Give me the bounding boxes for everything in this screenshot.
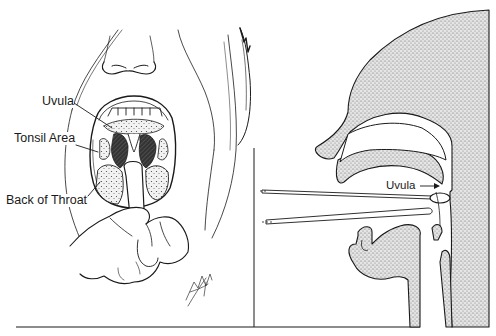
swab-lower: [266, 208, 432, 224]
upper-teeth: [108, 108, 162, 116]
throat-left-dark: [111, 134, 128, 169]
leader-tonsil: [76, 145, 98, 152]
label-tonsil-area: Tonsil Area: [14, 132, 75, 145]
tonsil-right: [158, 139, 168, 160]
ear: [238, 28, 251, 145]
label-back-of-throat: Back of Throat: [6, 194, 87, 207]
tongue-jaw: [349, 225, 420, 327]
right-panel-sagittal-view: [254, 10, 489, 327]
uvula-frontal: [128, 134, 140, 152]
tongue-left: [96, 165, 123, 204]
label-uvula-frontal: Uvula: [42, 95, 74, 108]
throat-exam-illustration: [0, 0, 496, 336]
trachea: [440, 250, 452, 327]
leader-uvula: [74, 103, 112, 128]
tonsil-left: [100, 138, 110, 159]
label-uvula-sagittal: Uvula: [386, 180, 415, 192]
palate: [104, 119, 164, 134]
hand: [70, 207, 189, 283]
artist-signature: [186, 274, 212, 306]
nose: [102, 62, 155, 74]
face-outline: [72, 30, 118, 110]
throat-right-dark: [139, 134, 156, 168]
left-panel-frontal-view: [65, 28, 251, 306]
swab-tip: [430, 193, 450, 203]
